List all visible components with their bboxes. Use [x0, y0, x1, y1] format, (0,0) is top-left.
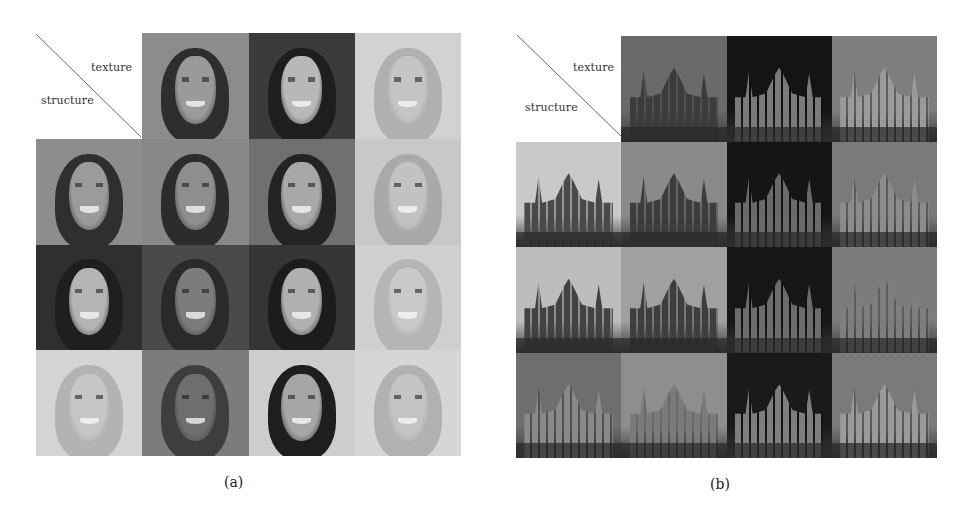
face-region	[175, 374, 215, 442]
ground	[727, 127, 832, 142]
face-region	[69, 268, 109, 336]
eyes	[288, 77, 316, 81]
structure-source-image-1	[36, 139, 142, 245]
swapped-output-image-r3-c2	[727, 353, 832, 459]
texture-source-image-1	[142, 33, 248, 139]
ground	[621, 127, 726, 142]
eyes	[288, 289, 316, 293]
eyes	[288, 395, 316, 399]
eyes	[288, 183, 316, 187]
panel-b-churches: texture structure (b)	[480, 0, 963, 524]
panel-a-faces: texture structure (a)	[0, 0, 480, 524]
swapped-output-image-r1-c2	[727, 142, 832, 248]
corner-blank-cell	[36, 33, 142, 139]
swapped-output-image-r1-c2	[249, 139, 355, 245]
swapped-output-image-r2-c1	[621, 247, 726, 353]
smile	[398, 206, 417, 212]
structure-source-image-2	[516, 247, 621, 353]
ground	[832, 338, 937, 353]
face-region	[69, 162, 109, 230]
ground	[516, 338, 621, 353]
face-region	[281, 268, 321, 336]
ground	[832, 443, 937, 458]
swapped-output-image-r2-c2	[249, 245, 355, 351]
eyes	[182, 289, 210, 293]
smile	[292, 312, 311, 318]
ground	[832, 127, 937, 142]
face-region	[69, 374, 109, 442]
swapped-output-image-r1-c3	[355, 139, 461, 245]
texture-source-image-2	[249, 33, 355, 139]
face-region	[281, 374, 321, 442]
face-region	[175, 56, 215, 124]
swapped-output-image-r1-c3	[832, 142, 937, 248]
texture-source-image-1	[621, 36, 726, 142]
eyes	[394, 77, 422, 81]
face-region	[175, 162, 215, 230]
swapped-output-image-r3-c2	[249, 350, 355, 456]
smile	[186, 101, 205, 107]
face-region	[281, 56, 321, 124]
structure-source-image-1	[516, 142, 621, 248]
panel-b-caption: (b)	[710, 476, 730, 492]
swapped-output-image-r2-c1	[142, 245, 248, 351]
ground	[727, 338, 832, 353]
ground	[727, 443, 832, 458]
swapped-output-image-r3-c3	[355, 350, 461, 456]
texture-source-image-3	[832, 36, 937, 142]
swapped-output-image-r3-c3	[832, 353, 937, 459]
smile	[186, 312, 205, 318]
eyes	[75, 395, 103, 399]
ground	[832, 232, 937, 247]
structure-source-image-2	[36, 245, 142, 351]
face-region	[388, 268, 428, 336]
church-image-grid	[516, 36, 937, 458]
swapped-output-image-r2-c3	[355, 245, 461, 351]
face-region	[388, 162, 428, 230]
smile	[398, 312, 417, 318]
eyes	[182, 183, 210, 187]
face-region	[388, 374, 428, 442]
swapped-output-image-r2-c2	[727, 247, 832, 353]
swapped-output-image-r2-c3	[832, 247, 937, 353]
structure-source-image-3	[36, 350, 142, 456]
panel-a-caption: (a)	[224, 474, 243, 490]
texture-source-image-3	[355, 33, 461, 139]
ground	[727, 232, 832, 247]
swapped-output-image-r1-c1	[142, 139, 248, 245]
corner-blank-cell	[516, 36, 621, 142]
face-image-grid	[36, 33, 461, 456]
ground	[516, 232, 621, 247]
ground	[621, 232, 726, 247]
eyes	[182, 77, 210, 81]
eyes	[394, 289, 422, 293]
smile	[80, 312, 99, 318]
eyes	[182, 395, 210, 399]
smile	[292, 206, 311, 212]
eyes	[394, 395, 422, 399]
face-region	[281, 162, 321, 230]
smile	[80, 206, 99, 212]
swapped-output-image-r1-c1	[621, 142, 726, 248]
eyes	[75, 183, 103, 187]
eyes	[394, 183, 422, 187]
smile	[186, 206, 205, 212]
ground	[621, 443, 726, 458]
eyes	[75, 289, 103, 293]
swapped-output-image-r3-c1	[621, 353, 726, 459]
ground	[621, 338, 726, 353]
face-region	[388, 56, 428, 124]
texture-source-image-2	[727, 36, 832, 142]
structure-source-image-3	[516, 353, 621, 459]
ground	[516, 443, 621, 458]
swapped-output-image-r3-c1	[142, 350, 248, 456]
face-region	[175, 268, 215, 336]
